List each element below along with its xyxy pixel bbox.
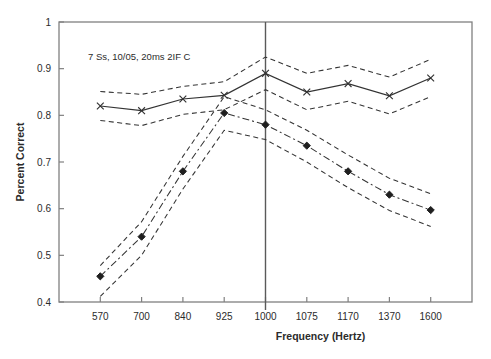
x-axis-tick-label: 840 [175, 311, 192, 322]
data-point-marker-x [386, 92, 393, 99]
data-point-marker-diamond [179, 168, 186, 175]
y-axis-tick-label: 0.6 [37, 203, 51, 214]
y-axis-tick-label: 0.4 [37, 297, 51, 308]
x-axis-tick-label: 1170 [337, 311, 359, 322]
x-axis-tick-label: 1600 [420, 311, 443, 322]
y-axis-tick-label: 0.9 [37, 63, 51, 74]
data-point-marker-diamond [262, 121, 269, 128]
data-point-marker-diamond [427, 206, 434, 213]
chart-figure: 0.40.50.60.70.80.91570700840925100010751… [0, 0, 491, 359]
x-axis-tick-label: 570 [92, 311, 109, 322]
data-point-marker-diamond [386, 191, 393, 198]
data-point-marker-x [427, 75, 434, 82]
x-axis-title: Frequency (Hertz) [276, 330, 365, 342]
data-point-marker-diamond [303, 142, 310, 149]
data-point-marker-diamond [345, 168, 352, 175]
y-axis-tick-label: 0.7 [37, 157, 51, 168]
x-axis-tick-label: 700 [133, 311, 150, 322]
y-axis-title: Percent Correct [14, 122, 26, 201]
x-axis-tick-label: 1075 [296, 311, 319, 322]
chart-canvas: 0.40.50.60.70.80.91570700840925100010751… [0, 0, 491, 359]
y-axis-tick-label: 0.5 [37, 250, 51, 261]
y-axis-tick-label: 1 [45, 17, 51, 28]
x-axis-tick-label: 1000 [254, 311, 277, 322]
chart-annotation: 7 Ss, 10/05, 20ms 2IF C [88, 51, 191, 62]
x-axis-tick-label: 925 [216, 311, 233, 322]
y-axis-tick-label: 0.8 [37, 110, 51, 121]
x-axis-tick-label: 1370 [378, 311, 401, 322]
data-point-marker-diamond [138, 233, 145, 240]
